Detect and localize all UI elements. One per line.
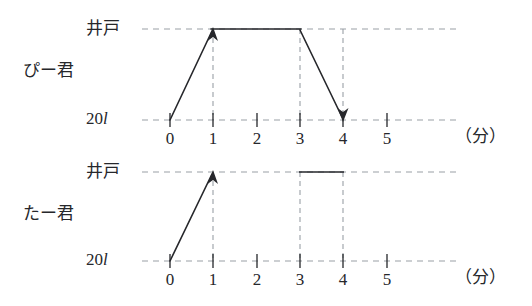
x-tick-label-0: 0 bbox=[160, 130, 180, 147]
y-axis-bottom-unit: l bbox=[103, 250, 108, 269]
x-axis-unit-label: （分） bbox=[455, 128, 506, 145]
x-tick-label-4: 4 bbox=[333, 130, 353, 147]
x-tick-label-5: 5 bbox=[377, 130, 397, 147]
y-axis-top-label: 井戸 bbox=[86, 20, 120, 37]
chart-panel-taa-kun: 井戸 たー君 20l 0 1 2 3 4 5 （分） bbox=[0, 153, 532, 306]
x-tick-label-0: 0 bbox=[160, 271, 180, 288]
chart-panel-pii-kun: 井戸 ぴー君 20l 0 1 2 3 4 5 （分） bbox=[0, 0, 532, 153]
data-segment-rising bbox=[170, 31, 212, 120]
x-tick-label-2: 2 bbox=[247, 130, 267, 147]
y-axis-bottom-label: 20l bbox=[86, 110, 108, 127]
series-name-label: たー君 bbox=[23, 205, 74, 222]
two-panel-line-chart-figure: 井戸 ぴー君 20l 0 1 2 3 4 5 （分） bbox=[0, 0, 532, 306]
y-axis-bottom-value: 20 bbox=[86, 250, 103, 269]
x-tick-label-4: 4 bbox=[333, 271, 353, 288]
y-axis-top-label: 井戸 bbox=[86, 163, 120, 180]
x-tick-label-1: 1 bbox=[203, 271, 223, 288]
y-axis-bottom-unit: l bbox=[103, 109, 108, 128]
x-tick-label-1: 1 bbox=[203, 130, 223, 147]
y-axis-bottom-value: 20 bbox=[86, 109, 103, 128]
x-axis-unit-label: （分） bbox=[455, 269, 506, 286]
y-axis-bottom-label: 20l bbox=[86, 251, 108, 268]
data-segment-falling bbox=[300, 30, 342, 117]
x-tick-label-3: 3 bbox=[290, 130, 310, 147]
x-tick-label-3: 3 bbox=[290, 271, 310, 288]
data-segment-rising bbox=[170, 174, 212, 261]
x-tick-label-2: 2 bbox=[247, 271, 267, 288]
series-name-label: ぴー君 bbox=[23, 62, 74, 79]
x-tick-label-5: 5 bbox=[377, 271, 397, 288]
